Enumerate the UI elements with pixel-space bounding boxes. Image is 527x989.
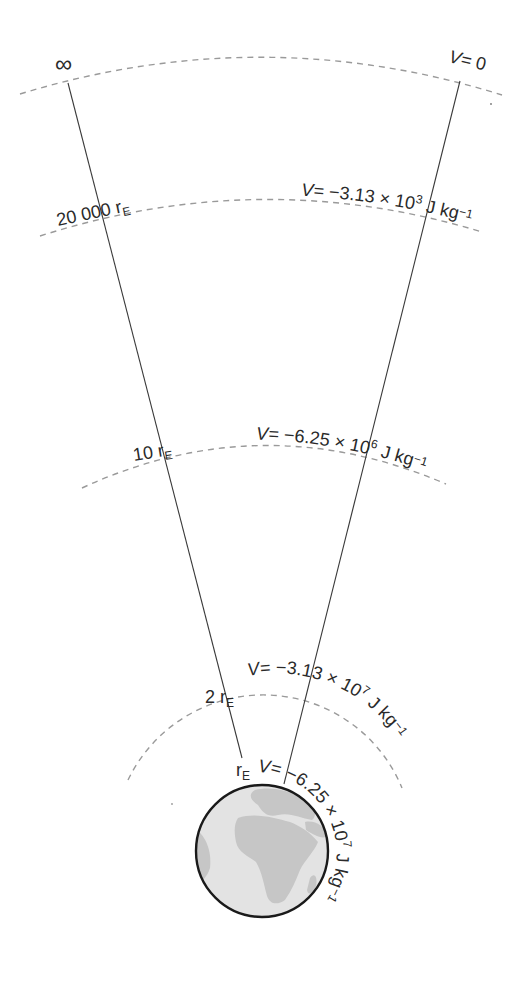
stray-dot bbox=[171, 803, 173, 805]
potential-20000-re: V= −3.13 × 103 J kg−1 bbox=[301, 180, 475, 223]
potential-10-re: V= −6.25 × 106 J kg−1 bbox=[256, 423, 430, 469]
label-1-re: rE bbox=[236, 760, 250, 783]
left-radial-line bbox=[68, 83, 242, 758]
arc-infinity bbox=[20, 57, 502, 95]
label-2-re: 2 rE bbox=[205, 687, 234, 710]
earth-globe bbox=[196, 785, 328, 917]
potential-diagram: ∞ 20 000 rE 10 rE 2 rE rE V= 0 V= −3.13 … bbox=[0, 0, 527, 989]
label-10-re: 10 rE bbox=[131, 439, 173, 468]
label-infinity: ∞ bbox=[55, 50, 72, 77]
potential-infinity: V= 0 bbox=[447, 46, 488, 74]
stray-dot bbox=[490, 103, 492, 105]
potential-2-re: V= −3.13 × 107 J kg−1 bbox=[246, 657, 411, 738]
label-20000-re: 20 000 rE bbox=[55, 195, 132, 233]
